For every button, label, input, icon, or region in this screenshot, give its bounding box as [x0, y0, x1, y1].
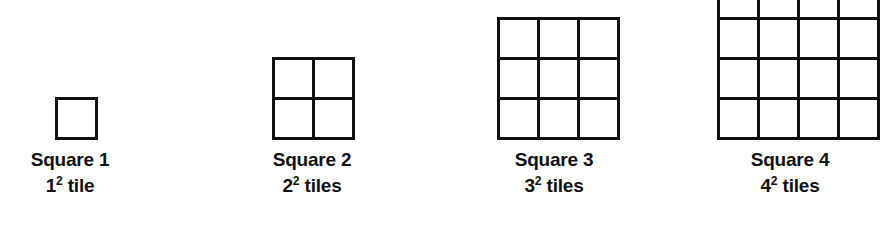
tile-cell [760, 60, 797, 97]
tile-cell [760, 20, 797, 57]
tile-cell [840, 60, 877, 97]
tile-cell [840, 20, 877, 57]
square-numbers-figure: Square 112 tileSquare 222 tilesSquare 33… [0, 0, 887, 225]
tile-cell [800, 60, 837, 97]
tile-cell [840, 100, 877, 137]
count-base: 4 [760, 175, 770, 196]
square-label-title: Square 4 [670, 150, 887, 169]
figure-caption: Square 442 tiles [670, 150, 887, 195]
count-exponent: 2 [771, 174, 778, 188]
tile-cell [720, 100, 757, 137]
square-label-count: 42 tiles [670, 176, 887, 195]
count-unit: tiles [783, 175, 820, 196]
tile-cell [840, 0, 877, 17]
square-figure-group: Square 442 tiles [0, 0, 887, 225]
tile-cell [720, 0, 757, 17]
tile-cell [720, 20, 757, 57]
tile-cell [720, 60, 757, 97]
tile-grid-4x4 [717, 0, 880, 140]
tile-cell [800, 20, 837, 57]
tile-cell [760, 0, 797, 17]
tile-cell [800, 100, 837, 137]
tile-cell [800, 0, 837, 17]
tile-cell [760, 100, 797, 137]
